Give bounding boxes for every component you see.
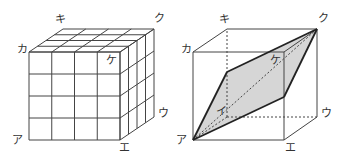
vertex-label-a: ア <box>12 135 23 146</box>
vertex-label-e: エ <box>285 142 296 153</box>
vertex-label-ka: カ <box>181 44 192 55</box>
vertex-label-e: エ <box>119 142 130 153</box>
vertex-label-u: ウ <box>321 108 332 119</box>
diagram-canvas <box>0 0 344 159</box>
left-cube-figure <box>29 29 154 140</box>
vertex-label-i: イ <box>216 106 227 117</box>
edge-line <box>193 29 227 52</box>
edge-line <box>284 117 317 140</box>
vertex-label-ki: キ <box>55 14 66 25</box>
vertex-label-ka: カ <box>17 44 28 55</box>
vertex-label-ki: キ <box>219 14 230 25</box>
vertex-label-ke: ケ <box>270 55 281 66</box>
right-cube-figure <box>193 29 317 140</box>
vertex-label-ku: ク <box>154 13 165 24</box>
vertex-label-a: ア <box>176 135 187 146</box>
vertex-label-u: ウ <box>158 108 169 119</box>
vertex-label-ke: ケ <box>106 55 117 66</box>
vertex-label-ku: ク <box>318 13 329 24</box>
